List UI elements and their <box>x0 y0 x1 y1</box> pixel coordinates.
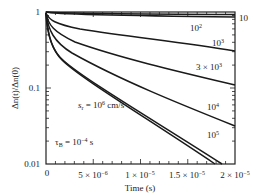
x-tick-label-0: 0 <box>45 168 50 178</box>
y-tick-label-0.01: 0.01 <box>24 159 40 169</box>
annotation-sr: sr = 106 cm/s <box>78 100 125 111</box>
curve-s1e3 <box>46 13 235 51</box>
curve-label-10: 10 <box>239 13 249 23</box>
curve-label-1e4: 104 <box>207 102 219 112</box>
y-tick-label-1: 1 <box>36 7 41 17</box>
curve-label-1e5: 105 <box>207 130 219 140</box>
curve-label-1e3: 103 <box>212 38 224 48</box>
x-tick-label-1e-5: 1 × 10−5 <box>125 170 154 180</box>
curve-label-1e2: 102 <box>190 23 202 33</box>
annotation-tau: τB = 10−4 s <box>55 137 94 148</box>
chart-svg: 1 0.1 0.01 0 5 × 10−6 1 × 10−5 1.5 × 10−… <box>0 0 260 196</box>
x-axis-title: Time (s) <box>125 183 155 193</box>
curve-label-3e3: 3 × 103 <box>196 62 222 72</box>
x-tick-label-5e-6: 5 × 10−6 <box>78 170 107 180</box>
curve-s3e3 <box>46 13 235 85</box>
x-tick-label-1.5e-5: 1.5 × 10−5 <box>169 170 205 180</box>
x-tick-label-2e-5: 2 × 10−5 <box>220 170 249 180</box>
y-axis-title: Δn(t)/Δn(0) <box>10 67 20 109</box>
y-tick-label-0.1: 0.1 <box>29 83 40 93</box>
